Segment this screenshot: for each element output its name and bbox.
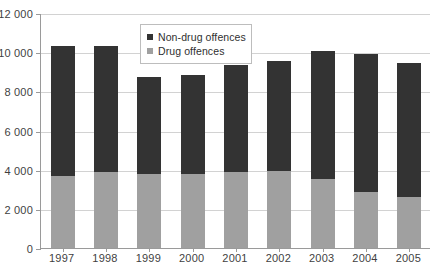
bar-segment-drug-offences-2004 (354, 192, 378, 248)
y-axis-label: 8 000 (4, 86, 33, 98)
bar-2000 (181, 75, 205, 248)
bar-segment-non-drug-offences-1998 (94, 46, 118, 171)
bar-2002 (267, 61, 291, 248)
legend-item-drug-offences: Drug offences (147, 44, 245, 57)
bar-segment-non-drug-offences-1999 (137, 77, 161, 174)
bar-2001 (224, 65, 248, 248)
bar-segment-drug-offences-1998 (94, 172, 118, 248)
bar-segment-non-drug-offences-2001 (224, 65, 248, 172)
bar-segment-non-drug-offences-2002 (267, 61, 291, 171)
bar-2005 (397, 63, 421, 248)
bar-segment-non-drug-offences-2003 (311, 51, 335, 179)
bar-2004 (354, 54, 378, 248)
y-axis-tick (36, 132, 41, 133)
legend-swatch-non-drug-offences (147, 34, 153, 40)
bar-1998 (94, 46, 118, 248)
bar-2003 (311, 51, 335, 248)
bar-segment-drug-offences-1999 (137, 174, 161, 248)
y-axis-tick (36, 210, 41, 211)
bar-segment-drug-offences-2001 (224, 172, 248, 248)
y-axis-tick (36, 53, 41, 54)
legend-label-drug-offences: Drug offences (158, 45, 224, 57)
y-axis-tick (36, 92, 41, 93)
y-axis-tick (36, 249, 41, 250)
bar-segment-drug-offences-2000 (181, 174, 205, 248)
bar-1997 (51, 46, 75, 248)
y-axis-tick (36, 171, 41, 172)
bar-segment-non-drug-offences-2004 (354, 54, 378, 192)
chart-legend: Non-drug offences Drug offences (140, 24, 252, 64)
bar-chart: 02 0004 0006 0008 00010 00012 000 199719… (0, 0, 441, 280)
y-axis-label: 2 000 (4, 204, 33, 216)
y-axis-label: 6 000 (4, 126, 33, 138)
legend-label-non-drug-offences: Non-drug offences (158, 31, 246, 43)
bar-segment-non-drug-offences-1997 (51, 46, 75, 175)
bar-segment-drug-offences-2003 (311, 179, 335, 248)
bar-segment-non-drug-offences-2005 (397, 63, 421, 197)
y-axis-label: 4 000 (4, 165, 33, 177)
y-axis-label: 10 000 (0, 47, 33, 59)
bar-segment-drug-offences-2005 (397, 197, 421, 248)
legend-swatch-drug-offences (147, 48, 153, 54)
x-axis-label-2005: 2005 (378, 252, 438, 264)
bar-segment-non-drug-offences-2000 (181, 75, 205, 174)
y-axis-tick (36, 14, 41, 15)
legend-item-non-drug-offences: Non-drug offences (147, 30, 245, 43)
bar-segment-drug-offences-2002 (267, 171, 291, 248)
bar-segment-drug-offences-1997 (51, 176, 75, 248)
gridline (41, 14, 430, 15)
bar-1999 (137, 77, 161, 248)
y-axis-label: 12 000 (0, 8, 33, 20)
